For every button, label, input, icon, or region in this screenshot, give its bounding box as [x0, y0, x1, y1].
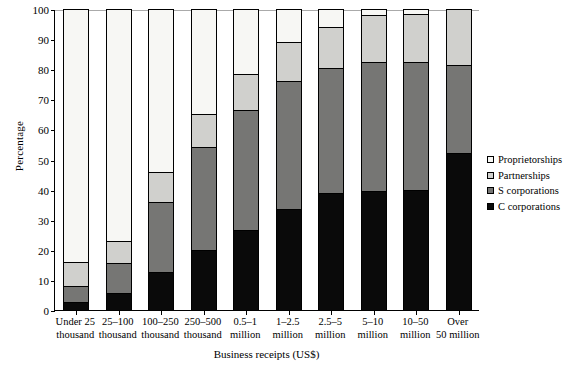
bar-segment-c-corporations[interactable] — [106, 293, 132, 310]
bar-4[interactable] — [191, 10, 217, 310]
bar-segment-proprietorships[interactable] — [403, 9, 429, 14]
black-square-icon — [487, 203, 494, 210]
y-axis-tick-label: 80 — [27, 65, 49, 76]
legend-item-label: C corporations — [498, 199, 560, 215]
light-gray-square-icon — [487, 172, 494, 179]
bar-segment-partnerships[interactable] — [276, 42, 302, 81]
plot-inner: 0102030405060708090100 — [55, 10, 479, 310]
bar-segment-s-corporations[interactable] — [233, 110, 259, 230]
bar-segment-proprietorships[interactable] — [106, 9, 132, 241]
bar-10[interactable] — [446, 10, 472, 310]
bar-6[interactable] — [276, 10, 302, 310]
y-axis-title: Percentage — [13, 91, 25, 201]
bar-segment-s-corporations[interactable] — [148, 202, 174, 273]
bar-segment-s-corporations[interactable] — [403, 62, 429, 190]
bar-1[interactable] — [63, 10, 89, 310]
legend-item-proprietorships[interactable]: Proprietorships — [487, 152, 562, 168]
bar-segment-c-corporations[interactable] — [191, 250, 217, 310]
legend-item-label: Proprietorships — [498, 152, 562, 168]
bar-segment-s-corporations[interactable] — [446, 65, 472, 154]
x-axis-tick-mark — [76, 310, 77, 315]
y-axis-tick-label: 90 — [27, 35, 49, 46]
y-axis-tick-mark — [51, 10, 55, 11]
x-axis-tick-mark — [289, 310, 290, 315]
y-axis-tick-mark — [51, 311, 55, 312]
bar-segment-proprietorships[interactable] — [233, 9, 259, 74]
y-axis-tick-mark — [51, 100, 55, 101]
bar-segment-proprietorships[interactable] — [361, 9, 387, 15]
bar-2[interactable] — [106, 10, 132, 310]
x-axis-label-line: Over — [429, 316, 487, 329]
legend-item-c-corporations[interactable]: C corporations — [487, 199, 562, 215]
bar-9[interactable] — [403, 10, 429, 310]
x-axis-label-line: 50 million — [429, 329, 487, 342]
y-axis-tick-mark — [51, 161, 55, 162]
bar-segment-partnerships[interactable] — [446, 9, 472, 65]
y-axis-tick-label: 20 — [27, 245, 49, 256]
bar-segment-c-corporations[interactable] — [446, 153, 472, 310]
bar-3[interactable] — [148, 10, 174, 310]
y-axis-tick-mark — [51, 70, 55, 71]
bar-8[interactable] — [361, 10, 387, 310]
x-axis-label-10: Over50 million — [429, 316, 487, 341]
x-axis-tick-mark — [119, 310, 120, 315]
gray-square-icon — [487, 187, 494, 194]
y-axis-tick-mark — [51, 130, 55, 131]
bar-7[interactable] — [318, 10, 344, 310]
legend-item-s-corporations[interactable]: S corporations — [487, 183, 562, 199]
y-axis-tick-label: 0 — [27, 306, 49, 317]
bar-segment-partnerships[interactable] — [63, 262, 89, 286]
chart-legend: ProprietorshipsPartnershipsS corporation… — [487, 152, 562, 214]
bar-segment-partnerships[interactable] — [403, 14, 429, 62]
bar-segment-c-corporations[interactable] — [361, 191, 387, 310]
bar-segment-proprietorships[interactable] — [148, 9, 174, 172]
bar-segment-c-corporations[interactable] — [318, 193, 344, 310]
y-axis-tick-label: 50 — [27, 155, 49, 166]
x-axis-tick-mark — [204, 310, 205, 315]
y-axis-tick-label: 30 — [27, 215, 49, 226]
bar-segment-partnerships[interactable] — [148, 172, 174, 202]
x-axis-tick-mark — [246, 310, 247, 315]
y-axis-tick-label: 100 — [27, 5, 49, 16]
stacked-bar-chart-figure: Percentage 0102030405060708090100 Under … — [0, 0, 573, 371]
bar-segment-partnerships[interactable] — [233, 74, 259, 110]
bar-segment-partnerships[interactable] — [106, 241, 132, 264]
bar-segment-proprietorships[interactable] — [276, 9, 302, 42]
bar-segment-s-corporations[interactable] — [276, 81, 302, 209]
y-axis-tick-label: 10 — [27, 275, 49, 286]
bar-5[interactable] — [233, 10, 259, 310]
bar-segment-s-corporations[interactable] — [318, 68, 344, 193]
bar-segment-s-corporations[interactable] — [63, 286, 89, 303]
bar-segment-c-corporations[interactable] — [63, 302, 89, 310]
y-axis-tick-mark — [51, 281, 55, 282]
bar-segment-s-corporations[interactable] — [191, 147, 217, 249]
bar-segment-partnerships[interactable] — [318, 27, 344, 68]
y-axis-tick-mark — [51, 221, 55, 222]
bar-segment-s-corporations[interactable] — [106, 263, 132, 293]
bar-segment-c-corporations[interactable] — [148, 272, 174, 310]
open-square-icon — [487, 156, 494, 163]
bar-segment-c-corporations[interactable] — [276, 209, 302, 310]
bar-segment-c-corporations[interactable] — [403, 190, 429, 310]
x-axis-tick-mark — [161, 310, 162, 315]
y-axis-tick-label: 60 — [27, 125, 49, 136]
bar-segment-proprietorships[interactable] — [63, 9, 89, 262]
y-axis-tick-label: 70 — [27, 95, 49, 106]
bar-segment-partnerships[interactable] — [191, 114, 217, 147]
bar-segment-c-corporations[interactable] — [233, 230, 259, 310]
x-axis-tick-mark — [374, 310, 375, 315]
bar-segment-partnerships[interactable] — [361, 15, 387, 62]
legend-item-label: Partnerships — [498, 168, 550, 184]
legend-item-partnerships[interactable]: Partnerships — [487, 168, 562, 184]
y-axis-tick-mark — [51, 40, 55, 41]
bar-segment-proprietorships[interactable] — [318, 9, 344, 27]
y-axis-tick-mark — [51, 251, 55, 252]
x-axis-tick-mark — [416, 310, 417, 315]
x-axis-tick-mark — [459, 310, 460, 315]
bar-segment-s-corporations[interactable] — [361, 62, 387, 191]
plot-area: 0102030405060708090100 — [54, 10, 479, 311]
x-axis-tick-mark — [331, 310, 332, 315]
x-axis-title: Business receipts (US$) — [54, 348, 479, 360]
bar-segment-proprietorships[interactable] — [191, 9, 217, 114]
y-axis-tick-mark — [51, 191, 55, 192]
